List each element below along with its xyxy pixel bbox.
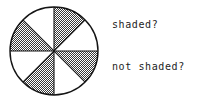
- pie-chart: [8, 3, 100, 100]
- figure-root: shaded? not shaded?: [0, 0, 212, 104]
- legend-label-not-shaded: not shaded?: [112, 61, 185, 73]
- legend-label-shaded: shaded?: [112, 19, 158, 31]
- pie-chart-svg: [8, 3, 100, 100]
- legend: shaded? not shaded?: [112, 0, 212, 104]
